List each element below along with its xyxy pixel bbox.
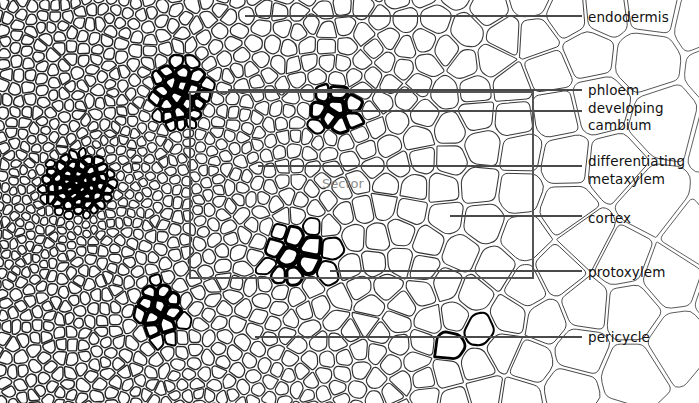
label-metaxylem: metaxylem	[588, 172, 665, 187]
label-cambium: cambium	[588, 118, 652, 133]
label-layer: endodermis phloem developing cambium dif…	[0, 0, 699, 403]
root-cross-section-figure: endodermis phloem developing cambium dif…	[0, 0, 699, 403]
label-developing: developing	[588, 101, 664, 116]
sector-watermark-text: Sector	[322, 176, 364, 191]
label-endodermis: endodermis	[588, 10, 669, 25]
label-cortex: cortex	[588, 211, 631, 226]
label-protoxylem: protoxylem	[588, 265, 665, 280]
label-phloem: phloem	[588, 83, 639, 98]
label-differentiating: differentiating	[588, 154, 685, 169]
label-pericycle: pericycle	[588, 330, 650, 345]
